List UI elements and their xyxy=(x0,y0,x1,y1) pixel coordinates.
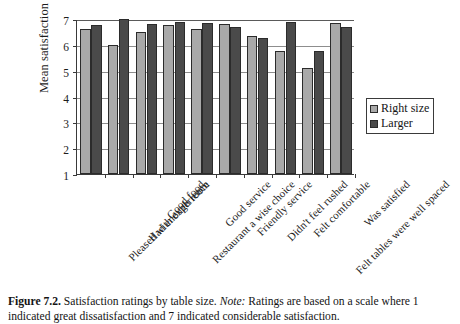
caption-title-text: Satisfaction ratings by table size. xyxy=(61,295,220,308)
y-tick-label-7: 7 xyxy=(63,13,69,29)
bar-right-size xyxy=(302,68,313,174)
y-tick-label-3: 3 xyxy=(63,116,69,132)
bar-group xyxy=(188,20,216,174)
bar-right-size xyxy=(247,36,258,174)
bar-series-container xyxy=(77,20,354,174)
bar-larger xyxy=(147,24,158,174)
plot-area: 1234567 xyxy=(76,20,354,175)
bar-larger xyxy=(258,38,269,174)
bar-larger xyxy=(91,25,102,174)
bar-larger xyxy=(119,19,130,174)
bar-right-size xyxy=(163,25,174,174)
caption-figure-number: Figure 7.2. xyxy=(8,295,61,308)
bar-right-size xyxy=(275,51,286,174)
bar-right-size xyxy=(136,32,147,174)
bar-group xyxy=(216,20,244,174)
bar-larger xyxy=(202,23,213,174)
bar-group xyxy=(244,20,272,174)
bar-group xyxy=(160,20,188,174)
chart-legend: Right size Larger xyxy=(366,98,434,134)
y-axis-title: Mean satisfaction ratings xyxy=(37,0,55,107)
bar-larger xyxy=(175,22,186,174)
figure-caption: Figure 7.2. Satisfaction ratings by tabl… xyxy=(8,294,454,324)
legend-label-right-size: Right size xyxy=(381,101,429,116)
y-tick-label-5: 5 xyxy=(63,65,69,81)
bar-group xyxy=(299,20,327,174)
bar-larger xyxy=(314,51,325,174)
bar-group xyxy=(133,20,161,174)
bar-right-size xyxy=(219,24,230,174)
x-axis-label: Good food xyxy=(164,178,207,221)
legend-swatch-right-size xyxy=(370,105,378,113)
bar-right-size xyxy=(191,29,202,174)
bar-right-size xyxy=(80,29,91,174)
y-tick-label-6: 6 xyxy=(63,39,69,55)
bar-group xyxy=(105,20,133,174)
legend-swatch-larger xyxy=(370,120,378,128)
x-axis-labels: Pleased with experienceHad enough roomGo… xyxy=(0,176,460,286)
legend-label-larger: Larger xyxy=(381,116,413,131)
bar-right-size xyxy=(108,45,119,174)
caption-note-word: Note: xyxy=(220,295,246,308)
bar-group xyxy=(272,20,300,174)
bar-larger xyxy=(286,22,297,174)
y-tick-label-2: 2 xyxy=(63,142,69,158)
bar-larger xyxy=(230,27,241,174)
y-tick-label-4: 4 xyxy=(63,91,69,107)
bar-group xyxy=(327,20,355,174)
caption-note-text: Ratings are based on a scale where xyxy=(245,295,410,308)
legend-item-larger: Larger xyxy=(370,116,429,131)
bar-larger xyxy=(341,27,352,174)
bar-right-size xyxy=(330,23,341,174)
legend-item-right-size: Right size xyxy=(370,101,429,116)
bar-group xyxy=(77,20,105,174)
